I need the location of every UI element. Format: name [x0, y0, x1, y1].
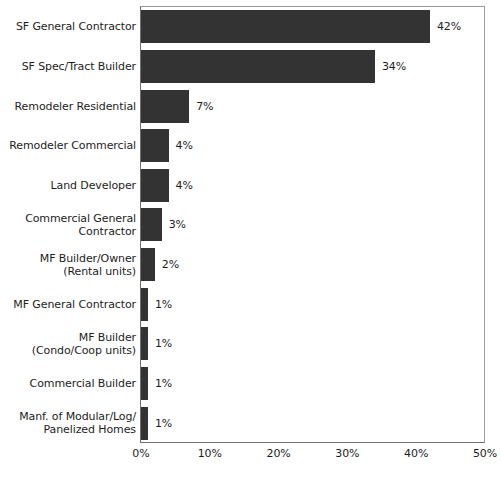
x-axis-tick-label: 10% [198, 447, 222, 460]
x-axis-tick-label: 40% [404, 447, 428, 460]
bar-value-label: 1% [155, 298, 172, 311]
bar-value-label: 2% [162, 258, 179, 271]
bar-row: Remodeler Commercial4% [0, 126, 501, 166]
bar [141, 407, 148, 440]
bar [141, 248, 155, 281]
bar-value-label: 1% [155, 337, 172, 350]
bar-group: 34% [141, 50, 406, 83]
category-label: Commercial Builder [4, 377, 136, 390]
bar [141, 288, 148, 321]
bar-value-label: 42% [437, 20, 461, 33]
bar-value-label: 1% [155, 417, 172, 430]
category-label: MF Builder (Condo/Coop units) [4, 331, 136, 357]
x-axis-tick-label: 0% [132, 447, 149, 460]
bar [141, 129, 169, 162]
category-label: MF Builder/Owner (Rental units) [4, 252, 136, 278]
bar [141, 327, 148, 360]
bar-value-label: 1% [155, 377, 172, 390]
bar-chart: SF General Contractor42%SF Spec/Tract Bu… [0, 0, 501, 478]
bar-group: 4% [141, 169, 193, 202]
bar-group: 3% [141, 208, 186, 241]
category-label: Land Developer [4, 179, 136, 192]
category-label: Manf. of Modular/Log/ Panelized Homes [4, 410, 136, 436]
bar [141, 90, 189, 123]
bar-value-label: 4% [176, 179, 193, 192]
bar-group: 42% [141, 10, 461, 43]
bar [141, 169, 169, 202]
x-axis-tick-label: 50% [473, 447, 497, 460]
bar [141, 50, 375, 83]
bar-row: SF Spec/Tract Builder34% [0, 47, 501, 87]
bar-value-label: 34% [382, 60, 406, 73]
bar-group: 2% [141, 248, 179, 281]
bar-row: Land Developer4% [0, 166, 501, 206]
bar-row: Commercial General Contractor3% [0, 205, 501, 245]
bar-row: MF Builder (Condo/Coop units)1% [0, 324, 501, 364]
bar-row: Commercial Builder1% [0, 364, 501, 404]
category-label: Remodeler Commercial [4, 139, 136, 152]
bar-group: 1% [141, 288, 172, 321]
category-label: MF General Contractor [4, 298, 136, 311]
bar-value-label: 7% [196, 100, 213, 113]
bar-group: 7% [141, 90, 213, 123]
bar-value-label: 3% [169, 218, 186, 231]
category-label: Commercial General Contractor [4, 212, 136, 238]
bar-group: 4% [141, 129, 193, 162]
category-label: Remodeler Residential [4, 100, 136, 113]
bar [141, 208, 162, 241]
bar-row: Remodeler Residential7% [0, 86, 501, 126]
bar-row: SF General Contractor42% [0, 7, 501, 47]
x-axis-tick-label: 20% [267, 447, 291, 460]
bar-row: Manf. of Modular/Log/ Panelized Homes1% [0, 403, 501, 443]
bar-value-label: 4% [176, 139, 193, 152]
bar-rows: SF General Contractor42%SF Spec/Tract Bu… [0, 7, 501, 443]
bar-row: MF Builder/Owner (Rental units)2% [0, 245, 501, 285]
category-label: SF Spec/Tract Builder [4, 60, 136, 73]
bar-group: 1% [141, 327, 172, 360]
category-label: SF General Contractor [4, 20, 136, 33]
x-axis-tick-label: 30% [335, 447, 359, 460]
bar-row: MF General Contractor1% [0, 284, 501, 324]
bar-group: 1% [141, 407, 172, 440]
bar-group: 1% [141, 367, 172, 400]
bar [141, 367, 148, 400]
bar [141, 10, 430, 43]
x-axis: 0%10%20%30%40%50% [140, 447, 486, 467]
